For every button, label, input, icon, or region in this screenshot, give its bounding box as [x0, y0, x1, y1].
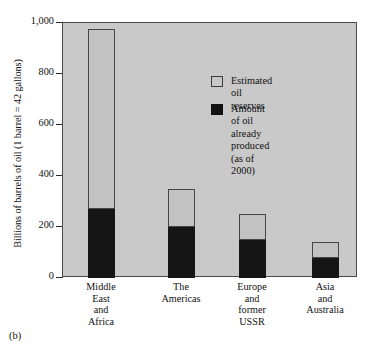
- x-axis-label-line: former: [220, 304, 284, 316]
- x-axis-label-line: Europe: [220, 281, 284, 293]
- x-axis-label-line: The: [148, 281, 214, 293]
- x-axis-label-line: and: [220, 293, 284, 305]
- legend-item-amount-of-oil-already-produced: Amount of oil already produced (as of 20…: [211, 103, 269, 177]
- bar-the-americas: [168, 23, 195, 278]
- x-axis-label-line: Africa: [70, 316, 132, 328]
- oil-reserves-bar-chart: Billions of barrels of oil (1 barrel = 4…: [0, 0, 373, 353]
- x-axis-label-4: AsiaandAustralia: [290, 281, 360, 316]
- y-axis-tick-label: 800: [2, 67, 54, 77]
- x-axis-label-line: Americas: [148, 293, 214, 305]
- bar-the-americas-produced-segment: [168, 227, 195, 278]
- bar-asia-australia: [312, 23, 339, 278]
- bar-europe-former-ussr-reserve-segment: [239, 214, 266, 240]
- y-axis-tick-label: 1,000: [2, 16, 54, 26]
- bar-asia-australia-reserve-segment: [312, 242, 339, 257]
- x-axis-label-1: MiddleEastandAfrica: [70, 281, 132, 327]
- x-axis-label-line: USSR: [220, 316, 284, 328]
- x-axis-label-line: Australia: [290, 304, 360, 316]
- y-axis-tick-label: 400: [2, 169, 54, 179]
- plot-area: Estimated oil reservesAmount of oil alre…: [62, 22, 357, 277]
- x-axis-label-line: and: [290, 293, 360, 305]
- legend-swatch-icon: [211, 104, 223, 115]
- y-axis-title: Billions of barrels of oil (1 barrel = 4…: [12, 24, 23, 284]
- bar-middle-east-africa-produced-segment: [88, 209, 115, 278]
- y-axis-tick-label: 0: [2, 271, 54, 281]
- x-axis-label-line: and: [70, 304, 132, 316]
- bar-middle-east-africa: [88, 23, 115, 278]
- legend-label: Amount of oil already produced (as of 20…: [231, 103, 269, 177]
- legend-swatch-icon: [211, 76, 223, 87]
- y-axis-tick-label: 200: [2, 220, 54, 230]
- x-axis-label-3: EuropeandformerUSSR: [220, 281, 284, 327]
- x-axis-label-2: TheAmericas: [148, 281, 214, 304]
- y-axis-tick-mark: [56, 277, 63, 278]
- panel-caption: (b): [9, 330, 21, 341]
- bar-middle-east-africa-reserve-segment: [88, 29, 115, 209]
- bar-europe-former-ussr-produced-segment: [239, 240, 266, 278]
- x-axis-label-line: Middle: [70, 281, 132, 293]
- x-axis-label-line: Asia: [290, 281, 360, 293]
- x-axis-label-line: East: [70, 293, 132, 305]
- y-axis-tick-label: 600: [2, 118, 54, 128]
- bar-asia-australia-produced-segment: [312, 258, 339, 278]
- bar-the-americas-reserve-segment: [168, 189, 195, 227]
